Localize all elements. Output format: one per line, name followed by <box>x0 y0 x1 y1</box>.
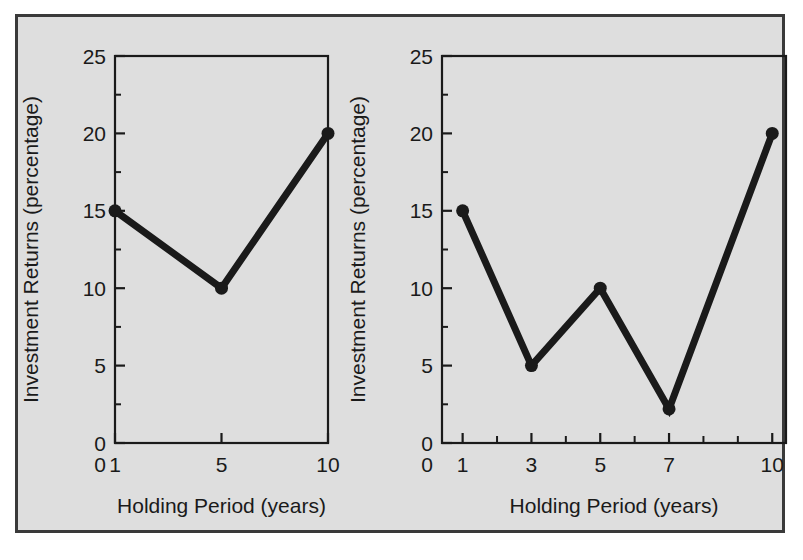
y-tick-label: 10 <box>410 277 433 300</box>
y-tick-label: 25 <box>410 45 433 68</box>
x-tick-label: 5 <box>594 453 606 476</box>
y-tick-label: 20 <box>83 122 106 145</box>
y-tick-label: 25 <box>83 45 106 68</box>
data-series-line <box>115 133 328 288</box>
data-point-marker[interactable] <box>594 282 607 295</box>
data-point-marker[interactable] <box>525 359 538 372</box>
x-tick-label: 5 <box>216 453 228 476</box>
data-series-line <box>463 133 773 409</box>
y-tick-label: 5 <box>94 354 106 377</box>
y-tick-label: 5 <box>421 354 433 377</box>
figure-frame: 051015202515100Holding Period (years)Inv… <box>15 14 785 533</box>
x-tick-label: 3 <box>526 453 538 476</box>
x-tick-label: 10 <box>316 453 339 476</box>
y-tick-label: 20 <box>410 122 433 145</box>
x-axis-title: Holding Period (years) <box>510 494 719 517</box>
y-tick-label: 0 <box>421 432 433 455</box>
figure-root: 051015202515100Holding Period (years)Inv… <box>0 0 803 560</box>
x-tick-label: 1 <box>109 453 121 476</box>
data-point-marker[interactable] <box>663 402 676 415</box>
data-point-marker[interactable] <box>322 127 335 140</box>
x-tick-label: 1 <box>457 453 469 476</box>
data-point-marker[interactable] <box>456 204 469 217</box>
x-tick-label: 7 <box>663 453 675 476</box>
right-line-chart: 05101520251357100Holding Period (years)I… <box>408 17 785 530</box>
x-axis-title: Holding Period (years) <box>117 494 326 517</box>
y-tick-label: 15 <box>410 199 433 222</box>
chart-panel-right: 05101520251357100Holding Period (years)I… <box>408 17 785 530</box>
x-origin-zero-label: 0 <box>94 453 106 476</box>
data-point-marker[interactable] <box>766 127 779 140</box>
x-tick-label: 10 <box>761 453 784 476</box>
y-tick-label: 10 <box>83 277 106 300</box>
x-origin-zero-label: 0 <box>421 453 433 476</box>
y-axis-title: Investment Returns (percentage) <box>346 96 369 403</box>
plot-area-border <box>115 56 328 443</box>
y-tick-label: 0 <box>94 432 106 455</box>
y-tick-label: 15 <box>83 199 106 222</box>
data-point-marker[interactable] <box>215 282 228 295</box>
y-axis-title: Investment Returns (percentage) <box>19 96 42 403</box>
plot-area-border <box>442 56 786 443</box>
data-point-marker[interactable] <box>109 204 122 217</box>
